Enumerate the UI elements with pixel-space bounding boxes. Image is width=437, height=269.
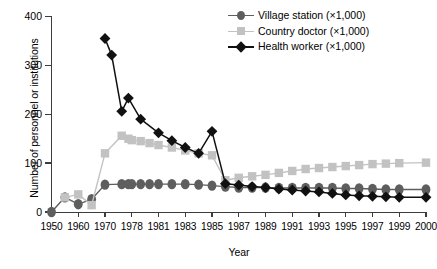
data-point [273, 184, 284, 195]
data-point [74, 199, 83, 209]
data-point [260, 182, 271, 193]
data-point [315, 164, 323, 172]
data-point [101, 149, 109, 157]
data-point [394, 192, 405, 203]
data-point [100, 33, 111, 44]
data-point [123, 93, 134, 104]
data-point [368, 160, 376, 168]
data-point [194, 179, 203, 189]
data-point [261, 171, 269, 179]
data-point [106, 50, 117, 61]
data-point [181, 179, 190, 189]
data-point [101, 179, 110, 189]
data-point [61, 193, 69, 201]
data-point [421, 192, 432, 203]
legend-marker-diamond-icon [228, 41, 254, 53]
data-point [154, 179, 163, 189]
data-point [380, 191, 391, 202]
legend-item: Village station (×1,000) [228, 8, 369, 24]
data-point [208, 180, 217, 190]
data-point [136, 179, 145, 189]
data-point [167, 179, 176, 189]
data-point [128, 136, 136, 144]
data-point [328, 163, 336, 171]
legend-marker-circle-icon [228, 10, 254, 22]
data-point [145, 179, 154, 189]
data-point [87, 201, 95, 209]
legend-label: Health worker (×1,000) [258, 39, 365, 55]
data-point [342, 162, 350, 170]
data-point [116, 106, 127, 117]
data-point [422, 158, 430, 166]
data-point [395, 159, 403, 167]
legend-item: Country doctor (×1,000) [228, 24, 369, 40]
data-point [275, 169, 283, 177]
data-point [288, 167, 296, 175]
data-point [145, 139, 153, 147]
data-point [301, 165, 309, 173]
legend-marker-square-icon [228, 25, 254, 37]
data-point [355, 161, 363, 169]
data-point [367, 191, 378, 202]
data-point [354, 190, 365, 201]
data-point [247, 181, 258, 192]
data-point [47, 207, 56, 217]
legend-item: Health worker (×1,000) [228, 39, 369, 55]
data-point [127, 179, 136, 189]
legend-label: Country doctor (×1,000) [258, 24, 369, 40]
legend-label: Village station (×1,000) [258, 8, 366, 24]
data-point [248, 172, 256, 180]
chart-legend: Village station (×1,000)Country doctor (… [228, 8, 369, 55]
data-point [154, 141, 162, 149]
data-point [208, 151, 216, 159]
data-point [74, 190, 82, 198]
data-point [382, 159, 390, 167]
data-point [207, 126, 218, 137]
data-point [136, 137, 144, 145]
